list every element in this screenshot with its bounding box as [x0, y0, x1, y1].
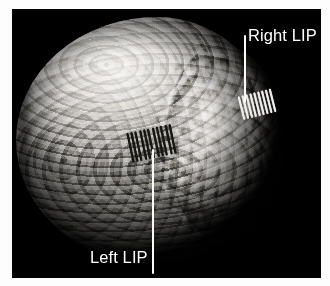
image-panel: Right LIP Left LIP [12, 9, 321, 278]
figure-container: Right LIP Left LIP [0, 0, 330, 286]
left-lip-leader-line [152, 149, 154, 274]
left-lip-label: Left LIP [90, 249, 148, 266]
right-lip-label: Right LIP [248, 27, 317, 44]
right-lip-leader-line [244, 35, 246, 103]
